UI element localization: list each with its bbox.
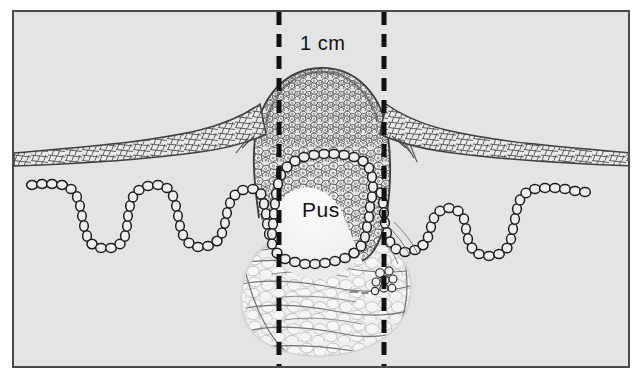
- rete-ridges: [236, 136, 417, 162]
- micro-abscess-cluster: [371, 267, 397, 295]
- epidermis-left: [14, 104, 266, 166]
- inflammatory-mass: [239, 57, 409, 272]
- pus-cavity: [261, 155, 373, 279]
- pus-label: Pus: [302, 198, 340, 222]
- dermal-fibres: [380, 222, 418, 264]
- pus-highlight: [272, 165, 366, 190]
- figure-stage: 1 cm Pus: [0, 0, 642, 383]
- basal-chain-left: [27, 180, 259, 253]
- epidermis-layer: [14, 104, 630, 166]
- basal-chain-right: [376, 184, 590, 261]
- epidermis-right: [380, 104, 630, 166]
- subcutaneous-fat: [224, 222, 434, 368]
- inflammatory-mass-outline: [254, 68, 390, 261]
- basal-chain-left-descending: [256, 150, 377, 269]
- abscess-cross-section-illustration: [14, 12, 630, 368]
- hair-follicle-remnant: [334, 237, 352, 256]
- figure-panel: 1 cm Pus: [12, 10, 630, 368]
- dome-crust: [266, 72, 378, 124]
- scale-label: 1 cm: [300, 32, 345, 55]
- basal-cell-chain: [27, 150, 591, 269]
- fat-outline: [241, 235, 411, 356]
